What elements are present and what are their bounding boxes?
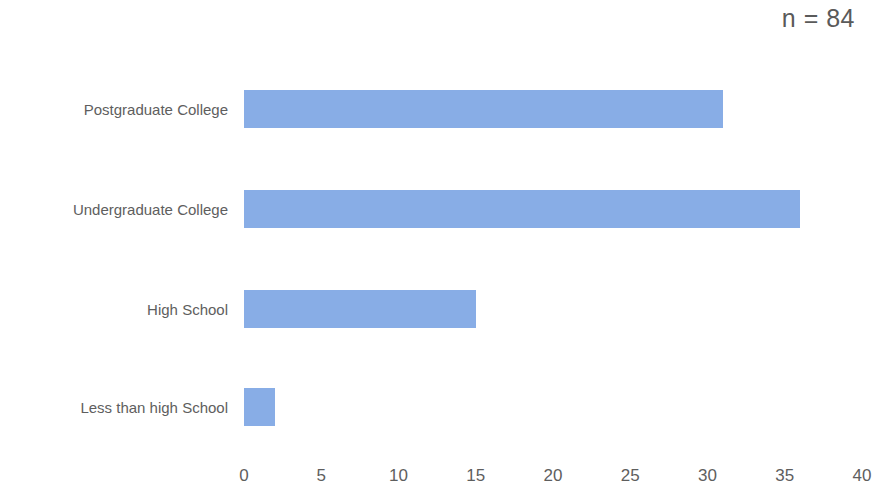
bar-chart-figure: n = 84 Postgraduate College Undergraduat…	[0, 0, 880, 503]
bar-high-school	[244, 290, 476, 328]
xtick-label-0: 0	[239, 466, 248, 486]
xtick-label-10: 10	[389, 466, 408, 486]
xtick-label-15: 15	[466, 466, 485, 486]
xtick-label-5: 5	[317, 466, 326, 486]
category-label-postgraduate-college: Postgraduate College	[0, 101, 228, 118]
xtick-label-30: 30	[698, 466, 717, 486]
bar-postgraduate-college	[244, 90, 723, 128]
xtick-label-35: 35	[775, 466, 794, 486]
plot-area: Postgraduate College Undergraduate Colle…	[0, 0, 880, 503]
category-label-high-school: High School	[0, 301, 228, 318]
category-label-less-than-high-school: Less than high School	[0, 399, 228, 416]
xtick-label-25: 25	[621, 466, 640, 486]
xtick-label-20: 20	[544, 466, 563, 486]
category-label-undergraduate-college: Undergraduate College	[0, 201, 228, 218]
bar-less-than-high-school	[244, 388, 275, 426]
bar-undergraduate-college	[244, 190, 800, 228]
xtick-label-40: 40	[853, 466, 872, 486]
